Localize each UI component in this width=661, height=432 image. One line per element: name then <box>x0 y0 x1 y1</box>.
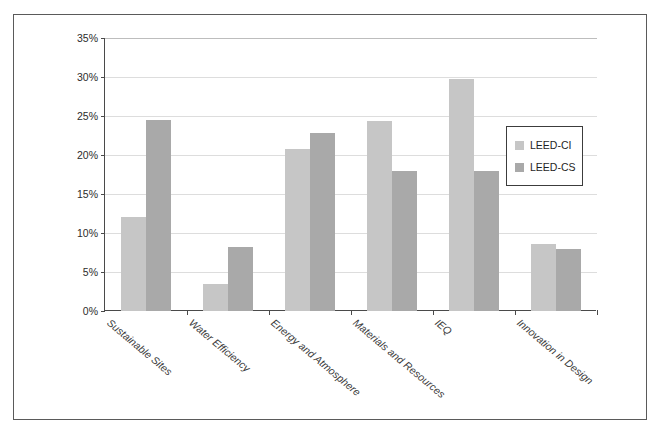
plot-area: 0%5%10%15%20%25%30%35% Sustainable Sites… <box>14 15 648 421</box>
figure-frame: 0%5%10%15%20%25%30%35% Sustainable Sites… <box>13 14 647 420</box>
x-axis-category-label: IEQ <box>433 317 454 337</box>
legend-swatch-icon <box>515 163 524 172</box>
bar-leed-ci <box>203 284 228 311</box>
bar-leed-ci <box>449 79 474 311</box>
x-axis-labels: Sustainable SitesWater EfficiencyEnergy … <box>104 317 596 417</box>
bar-leed-cs <box>392 171 417 311</box>
y-axis-tick-label: 25% <box>77 111 98 122</box>
legend-label: LEED-CS <box>530 162 576 173</box>
x-axis-category-label: Energy and Atmosphere <box>269 317 362 398</box>
y-axis-tick-label: 10% <box>77 228 98 239</box>
legend-label: LEED-CI <box>530 140 571 151</box>
bar-leed-ci <box>367 121 392 311</box>
bar-leed-cs <box>310 133 335 311</box>
x-axis-tick-mark <box>597 310 598 315</box>
bar-leed-cs <box>228 247 253 311</box>
y-axis-tick-label: 30% <box>77 72 98 83</box>
bar-leed-cs <box>556 249 581 311</box>
chart-legend: LEED-CI LEED-CS <box>506 126 583 186</box>
x-axis-category-label: Materials and Resources <box>351 317 447 400</box>
x-axis-category-label: Innovation in Design <box>515 317 595 386</box>
bar-leed-ci <box>531 244 556 311</box>
y-axis-tick-label: 35% <box>77 33 98 44</box>
bar-leed-cs <box>146 120 171 311</box>
y-axis-tick-label: 0% <box>83 306 98 317</box>
y-axis-tick-mark <box>101 311 105 312</box>
legend-item: LEED-CI <box>515 134 582 156</box>
bar-leed-ci <box>285 149 310 311</box>
y-axis-tick-label: 5% <box>83 267 98 278</box>
y-axis-tick-label: 20% <box>77 150 98 161</box>
bar-leed-ci <box>121 217 146 311</box>
legend-swatch-icon <box>515 141 524 150</box>
x-axis-category-label: Sustainable Sites <box>105 317 174 377</box>
bar-leed-cs <box>474 171 499 311</box>
x-axis-category-label: Water Efficiency <box>187 317 252 374</box>
y-axis-tick-label: 15% <box>77 189 98 200</box>
legend-item: LEED-CS <box>515 156 582 178</box>
